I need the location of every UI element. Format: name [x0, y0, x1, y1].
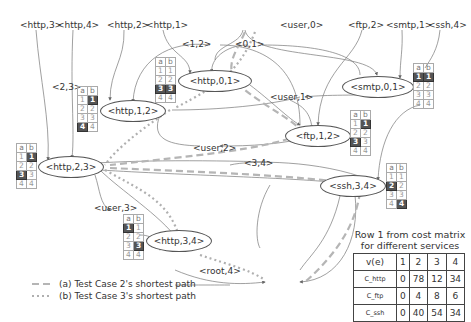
label-ftp-2: <ftp,2>: [348, 20, 384, 30]
edge-label-user-1: <user,1>: [270, 92, 313, 102]
label-ssh-4: <ssh,4>: [428, 20, 467, 30]
label-smtp-1: <smtp,1>: [386, 20, 432, 30]
node-http-3-4[interactable]: <http,3,4>: [146, 230, 212, 252]
legend-path-a: (a) Test Case 2's shortest path: [59, 279, 196, 289]
edge-label-3-4: <3,4>: [244, 158, 273, 168]
node-http-1-2[interactable]: <http,1,2>: [100, 100, 166, 122]
state-table-http-0-1: ab 11 22 33 44: [155, 57, 176, 103]
node-http-2-3[interactable]: <http,2,3>: [38, 156, 104, 178]
cost-matrix-table: v(e) 1 2 3 4 C_http 0 78 12 34 C_ftp 0 4…: [353, 253, 465, 322]
label-http-4: <http,4>: [57, 20, 99, 30]
label-http-1: <http,1>: [146, 20, 188, 30]
state-table-ftp-1-2: ab 11 22 33 44: [350, 110, 371, 156]
edge-label-0-1: <0,1>: [235, 39, 264, 49]
node-http-0-1[interactable]: <http,0,1>: [178, 70, 252, 92]
edge-label-user-3: <user,3>: [94, 203, 137, 213]
state-table-ssh-3-4: ab 11 22 33 44: [386, 163, 407, 209]
label-http-2: <http,2>: [107, 20, 149, 30]
state-table-http-1-2: ab 11 22 33 44: [77, 86, 98, 132]
node-smtp-0-1[interactable]: <smtp,0,1>: [342, 76, 414, 98]
state-table-http-2-3: ab 11 22 33 44: [16, 143, 37, 189]
node-root-4: <root,4>: [199, 266, 241, 276]
cost-matrix-caption: Row 1 from cost matrix for different ser…: [352, 229, 468, 251]
state-table-smtp-0-1: ab 11 22 33 44: [413, 63, 434, 109]
label-user-0: <user,0>: [280, 20, 323, 30]
state-table-http-3-4: ab 11 22 33 44: [123, 214, 144, 260]
legend-path-b: (b) Test Case 3's shortest path: [59, 291, 196, 301]
edge-label-1-2: <1,2>: [182, 39, 211, 49]
node-ftp-1-2[interactable]: <ftp,1,2>: [285, 125, 351, 147]
node-ssh-3-4[interactable]: <ssh,3,4>: [320, 175, 386, 197]
edge-label-user-2: <user,2>: [193, 143, 236, 153]
label-http-3: <http,3>: [20, 20, 62, 30]
